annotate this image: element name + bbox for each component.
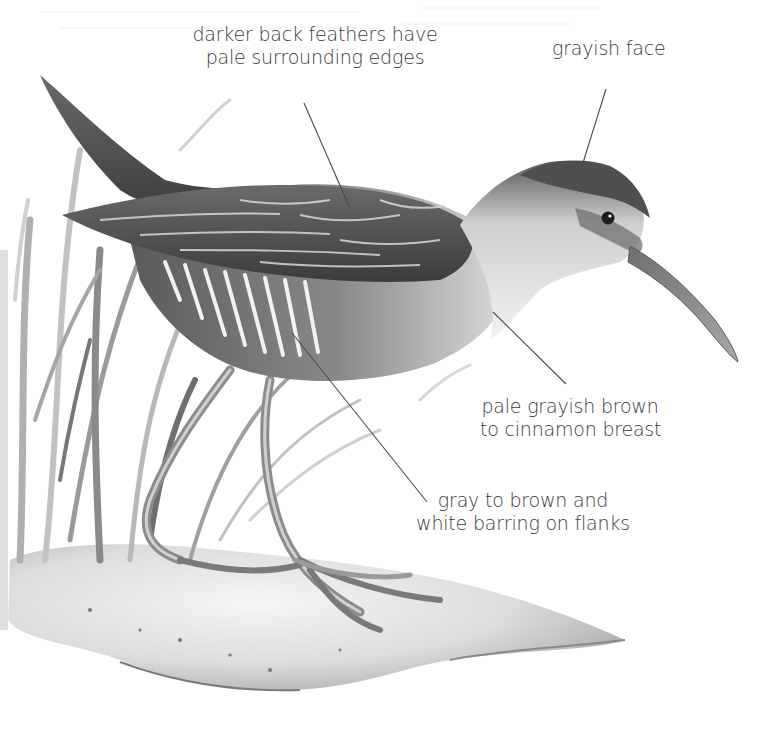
label-grayish-face: grayish face [552,37,662,60]
label-flanks: gray to brown and white barring on flank… [413,489,633,535]
illustration-stage: darker back feathers have pale surroundi… [0,0,767,733]
bill [628,246,738,362]
bird-illustration [0,0,767,733]
eye-icon [602,212,615,225]
leader-line-breast [493,312,566,384]
leader-line-grayish-face [582,89,606,166]
wing [62,185,473,282]
label-back-feathers: darker back feathers have pale surroundi… [190,23,440,69]
left-edge-shade [0,250,8,630]
label-breast: pale grayish brown to cinnamon breast [480,395,660,441]
